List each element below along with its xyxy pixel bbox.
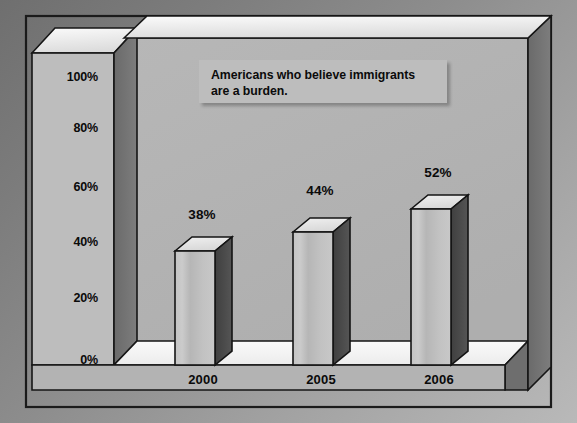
bar-2006-side-face	[451, 195, 468, 365]
x-axis-tick-2000: 2000	[158, 373, 248, 388]
bar-2000	[175, 237, 232, 365]
y-axis-tick-60: 60%	[36, 180, 98, 194]
y-axis-tick-40: 40%	[36, 235, 98, 249]
bar-value-label-2006: 52%	[403, 165, 473, 181]
bar-2000-front-face	[175, 251, 215, 365]
y-axis-tick-80: 80%	[36, 121, 98, 135]
left-wall-front-face	[32, 53, 114, 365]
bar-value-label-2005: 44%	[285, 183, 355, 199]
chart-figure: 100% 80% 60% 40% 20% 0% 2000 2005 2006 3…	[0, 0, 577, 423]
back-panel-top-cap	[124, 16, 551, 38]
bar-2006	[411, 195, 468, 365]
chart-title-text: Americans who believe immigrants are a b…	[211, 68, 443, 99]
left-wall-right-side	[114, 28, 137, 365]
x-axis-tick-2006: 2006	[394, 373, 484, 388]
right-wall-side	[528, 16, 551, 390]
y-axis-tick-0: 0%	[36, 353, 98, 367]
bar-2005-front-face	[293, 232, 333, 365]
bar-2005-side-face	[333, 218, 350, 365]
bar-2006-front-face	[411, 209, 451, 365]
bar-2000-side-face	[215, 237, 232, 365]
chart-title-line-1: Americans who believe immigrants	[211, 68, 415, 82]
y-axis-tick-100: 100%	[36, 70, 98, 84]
chart-title-line-2: are a burden.	[211, 84, 288, 98]
x-axis-tick-2005: 2005	[276, 373, 366, 388]
bar-2005	[293, 218, 350, 365]
chart-title-box: Americans who believe immigrants are a b…	[199, 60, 447, 103]
bar-value-label-2000: 38%	[167, 207, 237, 223]
y-axis-tick-20: 20%	[36, 291, 98, 305]
